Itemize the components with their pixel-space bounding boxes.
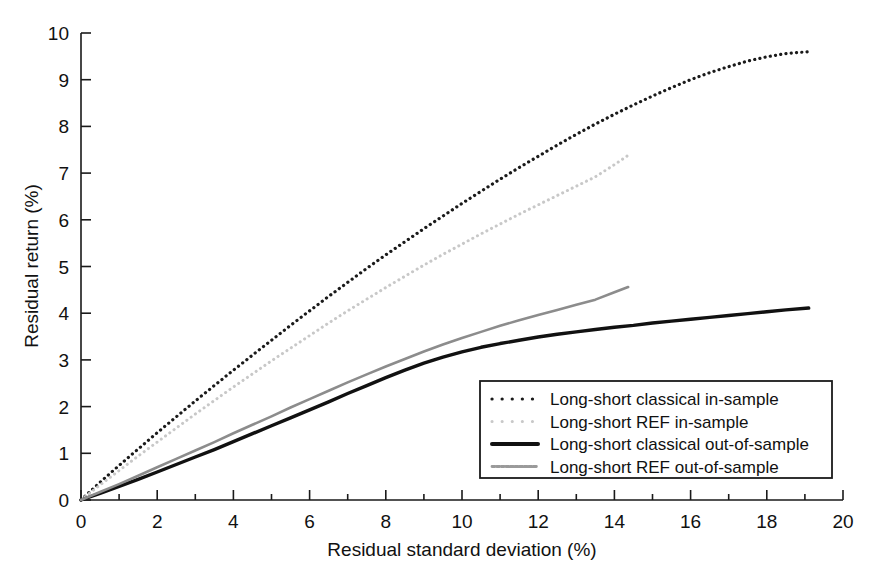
y-tick-label: 5	[58, 257, 69, 278]
y-axis-ticks	[81, 33, 91, 500]
x-axis-ticks	[81, 490, 843, 500]
x-axis-title: Residual standard deviation (%)	[327, 539, 596, 560]
x-tick-label: 0	[76, 511, 87, 532]
x-tick-label: 10	[451, 511, 472, 532]
x-tick-label: 8	[381, 511, 392, 532]
x-tick-label: 16	[680, 511, 701, 532]
x-tick-label: 18	[756, 511, 777, 532]
y-tick-label: 8	[58, 116, 69, 137]
y-tick-label: 1	[58, 443, 69, 464]
y-tick-label: 0	[58, 490, 69, 511]
x-tick-label: 6	[304, 511, 315, 532]
chart-legend: Long-short classical in-sampleLong-short…	[480, 381, 832, 478]
y-tick-label: 9	[58, 70, 69, 91]
legend-label-3: Long-short classical out-of-sample	[550, 435, 809, 454]
x-tick-label: 2	[152, 511, 163, 532]
y-axis-tick-labels: 012345678910	[48, 23, 70, 511]
x-axis-tick-labels: 02468101214161820	[76, 511, 854, 532]
x-tick-label: 12	[528, 511, 549, 532]
x-tick-label: 20	[832, 511, 853, 532]
y-tick-label: 3	[58, 350, 69, 371]
y-tick-label: 2	[58, 397, 69, 418]
legend-label-1: Long-short classical in-sample	[550, 390, 779, 409]
y-tick-label: 10	[48, 23, 69, 44]
y-tick-label: 7	[58, 163, 69, 184]
y-tick-label: 4	[58, 303, 69, 324]
chart-canvas: 012345678910 02468101214161820 Long-shor…	[0, 0, 877, 581]
x-tick-label: 4	[228, 511, 239, 532]
x-tick-label: 14	[604, 511, 626, 532]
y-tick-label: 6	[58, 210, 69, 231]
legend-label-4: Long-short REF out-of-sample	[550, 458, 779, 477]
figure-container: 012345678910 02468101214161820 Long-shor…	[0, 0, 877, 581]
legend-label-2: Long-short REF in-sample	[550, 413, 748, 432]
y-axis-title: Residual return (%)	[21, 184, 42, 348]
